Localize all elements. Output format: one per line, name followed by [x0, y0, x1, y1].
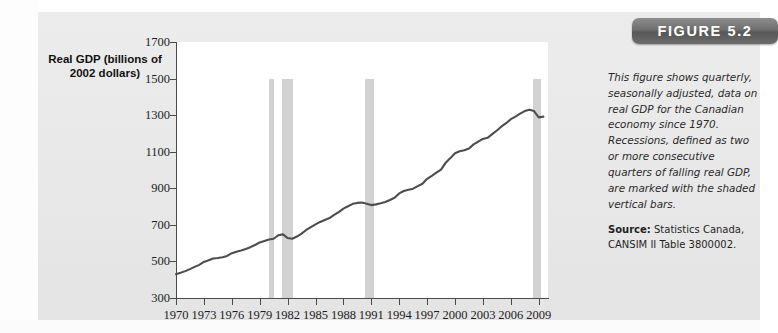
- x-axis-tick: [288, 299, 289, 305]
- x-axis-tick: [343, 299, 344, 305]
- figure-caption: This figure shows quarterly, seasonally …: [608, 70, 758, 212]
- y-axis-line: [176, 42, 177, 299]
- y-axis-tick-label: 1300: [118, 108, 170, 123]
- figure-source: Source: Statistics Canada, CANSIM II Tab…: [608, 223, 758, 252]
- gdp-line-series: [176, 42, 548, 299]
- page-left-margin: [0, 0, 38, 333]
- y-axis-tick-label: 700: [118, 217, 170, 232]
- y-axis-tick: [170, 188, 176, 189]
- y-axis-tick-label: 1500: [118, 71, 170, 86]
- x-axis-tick: [539, 299, 540, 305]
- y-axis-tick-label: 300: [118, 291, 170, 306]
- y-axis-tick: [170, 42, 176, 43]
- x-axis-tick: [371, 299, 372, 305]
- y-axis-tick: [170, 79, 176, 80]
- x-axis-tick: [511, 299, 512, 305]
- source-label: Source:: [608, 224, 651, 235]
- y-axis-tick-label: 1700: [118, 35, 170, 50]
- x-axis-tick: [399, 299, 400, 305]
- y-axis-tick-label: 500: [118, 254, 170, 269]
- x-axis-tick: [204, 299, 205, 305]
- x-axis-tick: [427, 299, 428, 305]
- x-axis-tick: [176, 299, 177, 305]
- y-axis-tick: [170, 152, 176, 153]
- x-axis-tick: [232, 299, 233, 305]
- y-axis-tick: [170, 225, 176, 226]
- y-axis-tick-label: 1100: [118, 144, 170, 159]
- caption-column: This figure shows quarterly, seasonally …: [608, 70, 758, 252]
- y-axis-tick-label: 900: [118, 181, 170, 196]
- x-axis-tick-label: 2009: [516, 308, 562, 323]
- x-axis-tick: [455, 299, 456, 305]
- x-axis-tick: [260, 299, 261, 305]
- y-axis-tick: [170, 115, 176, 116]
- x-axis-tick: [316, 299, 317, 305]
- figure-card: FIGURE 5.2 Real GDP (billions of 2002 do…: [38, 12, 760, 320]
- x-axis-tick: [483, 299, 484, 305]
- y-axis-tick: [170, 261, 176, 262]
